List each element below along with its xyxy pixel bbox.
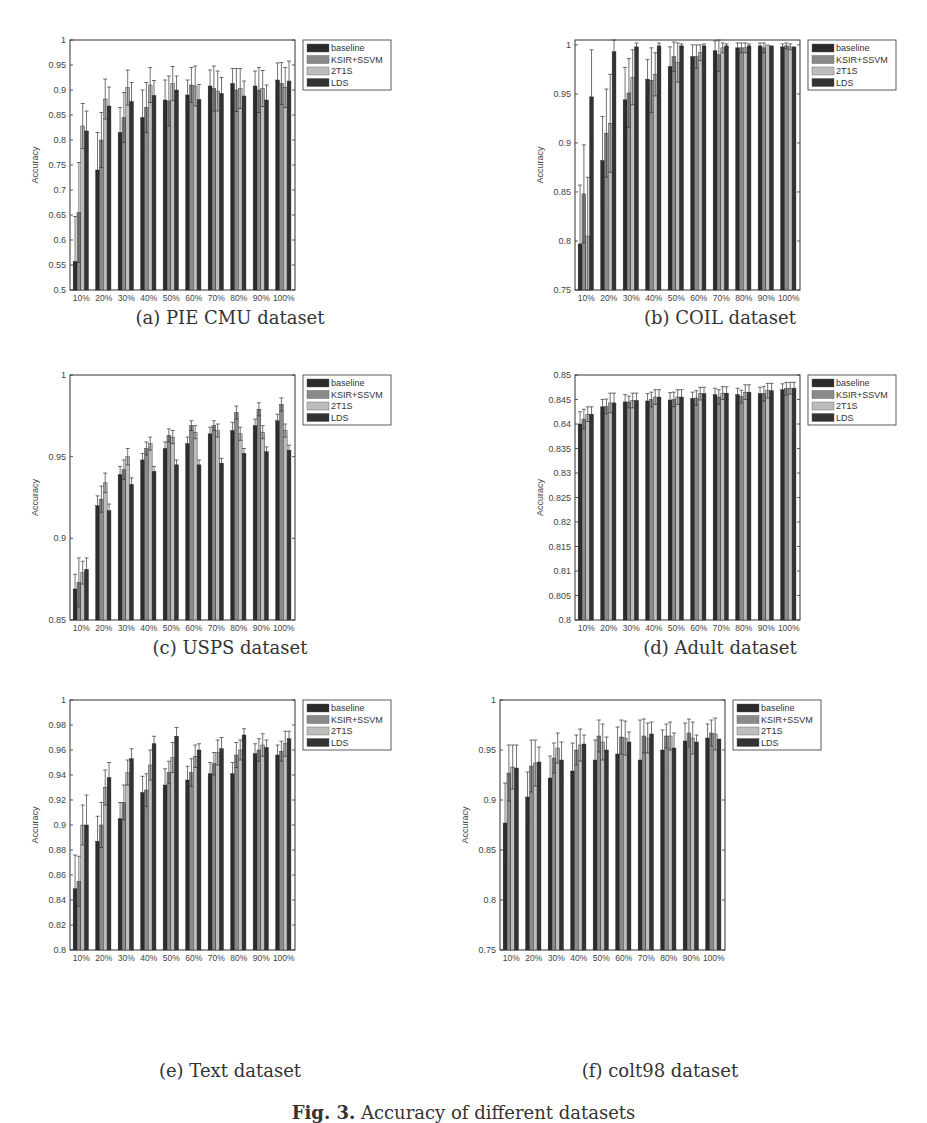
svg-text:100%: 100% [273, 953, 295, 963]
bar [649, 400, 653, 621]
bar [279, 751, 283, 950]
bar [118, 819, 122, 950]
bar [781, 47, 785, 290]
svg-text:0.55: 0.55 [48, 260, 66, 270]
bar [788, 47, 792, 290]
bar-chart: 0.850.90.951Accuracy10%20%30%40%50%60%70… [20, 330, 440, 635]
bar [642, 736, 646, 950]
bar [193, 86, 197, 290]
svg-text:100%: 100% [703, 953, 725, 963]
svg-text:2T1S: 2T1S [331, 66, 353, 76]
bar [122, 118, 126, 291]
svg-text:0.92: 0.92 [48, 795, 66, 805]
svg-text:70%: 70% [713, 623, 730, 633]
svg-text:0.7: 0.7 [53, 185, 66, 195]
bar [141, 460, 145, 620]
svg-text:0.9: 0.9 [558, 138, 571, 148]
svg-text:100%: 100% [778, 623, 800, 633]
bar [713, 51, 717, 290]
bar [189, 773, 193, 951]
svg-text:40%: 40% [140, 293, 157, 303]
svg-text:2T1S: 2T1S [836, 66, 858, 76]
svg-text:60%: 60% [185, 623, 202, 633]
bar [717, 55, 721, 290]
bar [623, 738, 627, 950]
chart-panel-text: 0.80.820.840.860.880.90.920.940.960.981A… [20, 660, 440, 965]
bar [691, 399, 695, 620]
svg-text:baseline: baseline [331, 43, 365, 53]
svg-text:0.82: 0.82 [48, 920, 66, 930]
bar [130, 484, 134, 620]
bar [253, 754, 257, 950]
bar [661, 750, 665, 950]
bar [770, 391, 774, 620]
bar [762, 394, 766, 620]
bar [265, 100, 269, 290]
bar [261, 89, 265, 291]
svg-text:60%: 60% [185, 293, 202, 303]
bar [220, 749, 224, 950]
svg-text:LDS: LDS [836, 78, 854, 88]
subcaption-d: (d) Adult dataset [590, 637, 850, 658]
svg-text:30%: 30% [623, 623, 640, 633]
bar [238, 434, 242, 620]
bar [234, 413, 238, 620]
bar [578, 745, 582, 950]
bar [631, 400, 635, 620]
svg-text:0.75: 0.75 [48, 160, 66, 170]
bar [683, 741, 687, 950]
svg-text:30%: 30% [118, 953, 135, 963]
bar [646, 79, 650, 290]
svg-text:30%: 30% [548, 953, 565, 963]
bar [619, 737, 623, 950]
bar [676, 397, 680, 620]
bar [107, 511, 111, 620]
bar [597, 736, 601, 950]
bar [276, 80, 280, 290]
figure-caption-label: Fig. 3. [292, 1102, 356, 1123]
svg-text:0.84: 0.84 [48, 895, 66, 905]
svg-text:1: 1 [61, 695, 66, 705]
svg-text:0.85: 0.85 [48, 615, 66, 625]
svg-text:40%: 40% [140, 623, 157, 633]
bar [279, 84, 283, 291]
svg-text:70%: 70% [638, 953, 655, 963]
bar [231, 84, 235, 291]
svg-text:80%: 80% [735, 623, 752, 633]
svg-text:0.85: 0.85 [478, 845, 496, 855]
svg-text:0.96: 0.96 [48, 745, 66, 755]
bar [533, 763, 537, 950]
bar [242, 453, 246, 620]
svg-text:0.95: 0.95 [48, 452, 66, 462]
svg-text:0.95: 0.95 [48, 60, 66, 70]
svg-text:LDS: LDS [761, 738, 779, 748]
svg-text:KSIR+SSVM: KSIR+SSVM [836, 390, 888, 400]
bar [590, 414, 594, 620]
bar [511, 767, 515, 950]
bar [257, 750, 261, 950]
bar [144, 108, 148, 291]
svg-text:20%: 20% [95, 953, 112, 963]
bar [220, 94, 224, 291]
svg-text:0.86: 0.86 [48, 870, 66, 880]
bar [702, 394, 706, 620]
bar [231, 774, 235, 950]
svg-text:30%: 30% [623, 293, 640, 303]
bar [283, 88, 287, 291]
bar [717, 739, 721, 950]
bar [709, 733, 713, 950]
bar [664, 736, 668, 950]
svg-text:30%: 30% [118, 293, 135, 303]
bar [788, 388, 792, 620]
bar [130, 102, 134, 291]
svg-text:90%: 90% [253, 293, 270, 303]
svg-text:90%: 90% [683, 953, 700, 963]
bar [601, 407, 605, 620]
bar [186, 95, 190, 290]
bar [601, 742, 605, 950]
bar [766, 45, 770, 290]
bar [208, 774, 212, 950]
bar [552, 758, 556, 950]
bar [167, 435, 171, 620]
bar [739, 48, 743, 290]
